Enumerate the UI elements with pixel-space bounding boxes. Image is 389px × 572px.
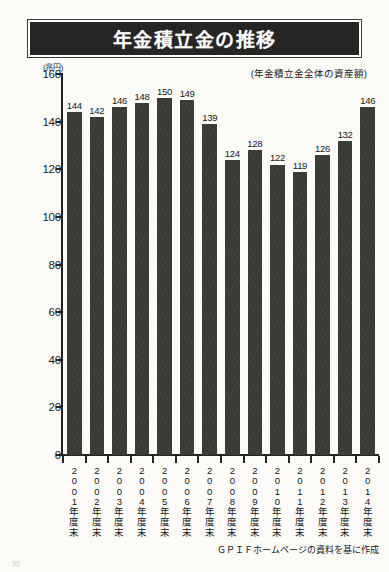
x-axis-label-char: 末 bbox=[198, 528, 221, 538]
x-axis-label: 2007年度末 bbox=[198, 466, 221, 538]
x-axis-tick-mark bbox=[152, 456, 154, 463]
x-axis-label-char: 末 bbox=[131, 528, 154, 538]
y-axis-tick-mark bbox=[56, 216, 62, 218]
x-axis-label-char: 末 bbox=[176, 528, 199, 538]
x-axis-label: 2008年度末 bbox=[221, 466, 244, 538]
x-axis-label: 2014年度末 bbox=[356, 466, 379, 538]
bar bbox=[270, 165, 285, 456]
x-axis-label: 2002年度末 bbox=[86, 466, 109, 538]
x-axis-label-char: 末 bbox=[108, 528, 131, 538]
x-axis-label-char: 末 bbox=[311, 528, 334, 538]
bar bbox=[90, 117, 105, 455]
x-axis-tick-mark bbox=[333, 456, 335, 463]
y-axis-tick-mark bbox=[56, 168, 62, 170]
x-axis-label: 2006年度末 bbox=[176, 466, 199, 538]
x-axis-tick-mark bbox=[378, 456, 380, 463]
x-axis-tick-mark bbox=[220, 456, 222, 463]
x-axis-label-char: 末 bbox=[86, 528, 109, 538]
x-axis-tick-mark bbox=[265, 456, 267, 463]
x-axis-label: 2001年度末 bbox=[63, 466, 86, 538]
x-axis-tick-mark bbox=[107, 456, 109, 463]
bar bbox=[315, 155, 330, 455]
x-axis-tick-mark bbox=[243, 456, 245, 463]
x-axis-tick-mark bbox=[175, 456, 177, 463]
x-axis-label-char: 末 bbox=[356, 528, 379, 538]
x-axis-label: 2009年度末 bbox=[244, 466, 267, 538]
x-axis-tick-mark bbox=[197, 456, 199, 463]
y-axis-tick-mark bbox=[56, 121, 62, 123]
bar bbox=[67, 112, 82, 455]
page-number: 33 bbox=[12, 560, 20, 567]
x-axis-label-char: 末 bbox=[244, 528, 267, 538]
chart-page: 年金積立金の推移 (兆円) (年金積立金全体の資産額) 020406080100… bbox=[0, 0, 389, 572]
bar bbox=[338, 141, 353, 455]
bar bbox=[180, 100, 195, 455]
bar-value-label: 146 bbox=[350, 95, 385, 106]
x-axis-label: 2011年度末 bbox=[289, 466, 312, 538]
x-axis-label: 2004年度末 bbox=[131, 466, 154, 538]
bar bbox=[248, 150, 263, 455]
y-axis-tick-mark bbox=[56, 406, 62, 408]
x-axis-tick-mark bbox=[85, 456, 87, 463]
x-axis-tick-mark bbox=[355, 456, 357, 463]
bar bbox=[360, 107, 375, 455]
y-axis-tick-mark bbox=[56, 359, 62, 361]
x-axis-tick-mark bbox=[288, 456, 290, 463]
bar bbox=[225, 160, 240, 455]
x-axis-tick-mark bbox=[310, 456, 312, 463]
x-axis-label-char: 末 bbox=[266, 528, 289, 538]
x-axis-label: 2003年度末 bbox=[108, 466, 131, 538]
source-attribution: ＧＰＩＦホームページの資料を基に作成 bbox=[217, 543, 379, 556]
x-axis-label: 2005年度末 bbox=[153, 466, 176, 538]
x-axis-label: 2010年度末 bbox=[266, 466, 289, 538]
x-axis-label-char: 末 bbox=[221, 528, 244, 538]
bar bbox=[293, 172, 308, 455]
bar bbox=[202, 124, 217, 455]
x-axis-tick-mark bbox=[62, 456, 64, 463]
y-axis-tick-mark bbox=[56, 264, 62, 266]
x-axis-label-char: 末 bbox=[334, 528, 357, 538]
x-axis-tick-mark bbox=[130, 456, 132, 463]
chart-plot-area: 020406080100120140160 144142146148150149… bbox=[0, 0, 389, 572]
x-axis-label: 2012年度末 bbox=[311, 466, 334, 538]
bar bbox=[135, 103, 150, 455]
x-axis-label-char: 末 bbox=[289, 528, 312, 538]
bar bbox=[157, 98, 172, 455]
x-axis-label-char: 末 bbox=[153, 528, 176, 538]
bar bbox=[112, 107, 127, 455]
x-axis-label: 2013年度末 bbox=[334, 466, 357, 538]
y-axis-tick-mark bbox=[56, 73, 62, 75]
x-axis-label-char: 末 bbox=[63, 528, 86, 538]
y-axis-tick-mark bbox=[56, 311, 62, 313]
